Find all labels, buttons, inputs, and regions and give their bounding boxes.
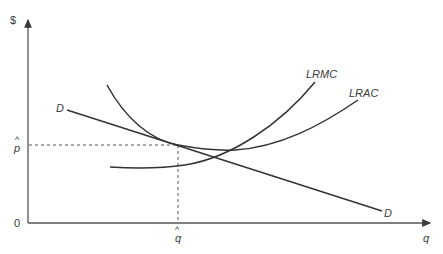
demand-curve <box>67 110 382 211</box>
lrac-label: LRAC <box>349 87 378 99</box>
demand-label-start: D <box>56 102 64 114</box>
lrmc-curve <box>110 82 315 168</box>
demand-label-end: D <box>384 207 392 219</box>
lrac-curve <box>107 85 358 150</box>
origin-label: 0 <box>14 217 20 229</box>
diagram-canvas: $ 0 q p ^ q ^ D D LRMC LRAC <box>0 0 443 254</box>
y-axis-label: $ <box>10 14 16 26</box>
lrmc-label: LRMC <box>306 68 337 80</box>
x-axis-label: q <box>423 232 430 244</box>
